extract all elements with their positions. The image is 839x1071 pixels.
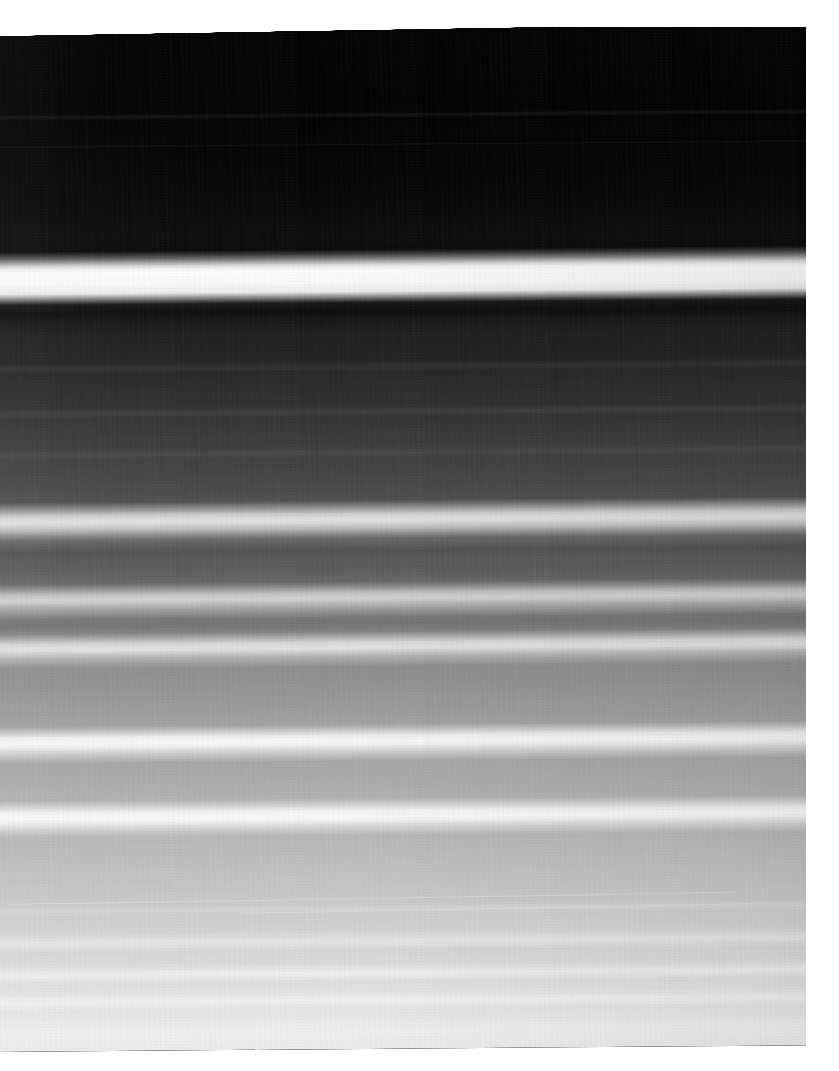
scan-page xyxy=(0,0,839,1071)
plate-clip xyxy=(0,0,839,1071)
lateral-shading xyxy=(0,17,818,1052)
ring-system-image xyxy=(0,17,818,1052)
